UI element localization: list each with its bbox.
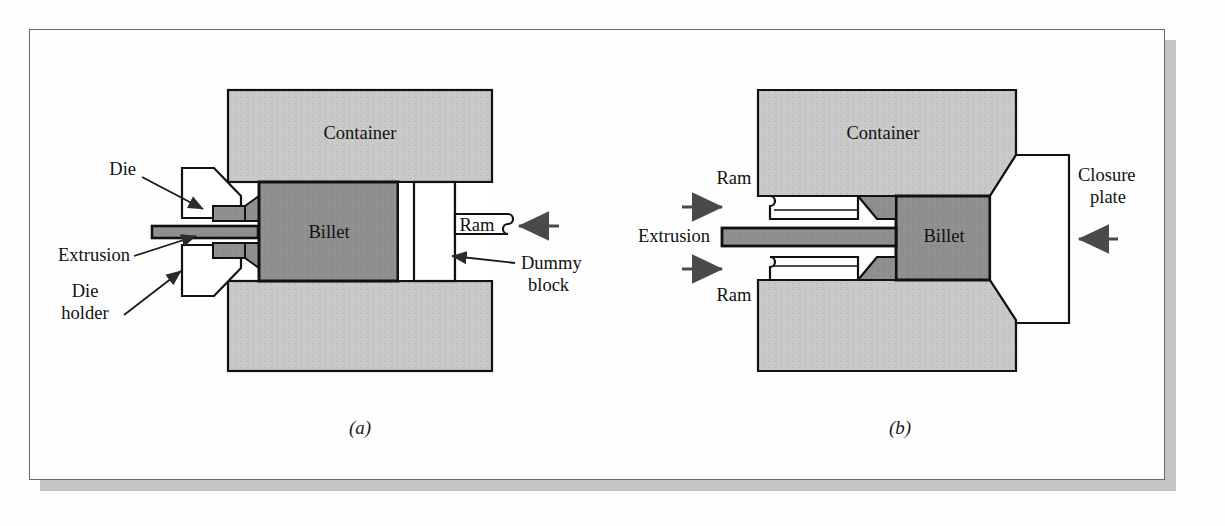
extrusion-b: [722, 228, 896, 246]
container-bottom-block-a: [228, 281, 492, 371]
die-lower-b: [858, 257, 896, 280]
figure-stage: Container Billet Ram Die Extrusion Die h…: [0, 0, 1225, 526]
ram-bottom-b: [770, 257, 858, 280]
die-lower-taper-a: [245, 243, 259, 268]
extrusion-label-a: Extrusion: [24, 245, 130, 266]
ram-top-label-b: Ram: [703, 168, 765, 189]
closure-plate-label-line2-b: plate: [1090, 187, 1170, 208]
closure-plate-label-line1-b: Closure: [1078, 165, 1178, 186]
container-label-a: Container: [294, 123, 426, 144]
caption-a: (a): [340, 417, 380, 439]
dummy-block-label-line2-a: block: [528, 275, 608, 296]
billet-dummy-gap-a: [398, 182, 414, 281]
ram-top-b: [770, 196, 858, 219]
caption-b: (b): [880, 417, 920, 439]
extrusion-label-b: Extrusion: [600, 226, 710, 247]
die-upper-a: [213, 206, 245, 221]
ram-bottom-label-b: Ram: [703, 285, 765, 306]
ram-label-a: Ram: [447, 215, 507, 236]
die-upper-b: [858, 196, 896, 219]
die-label-a: Die: [78, 159, 136, 180]
closure-plate-b: [990, 155, 1069, 323]
leader-die-holder-a: [124, 271, 181, 315]
extrusion-a: [152, 226, 258, 238]
die-lower-a: [213, 243, 245, 258]
container-label-b: Container: [817, 123, 949, 144]
die-holder-label-line1-a: Die: [52, 281, 118, 302]
container-bottom-block-b: [758, 280, 1016, 371]
dummy-block-label-line1-a: Dummy: [521, 253, 617, 274]
billet-label-b: Billet: [905, 226, 983, 247]
die-holder-label-line2-a: holder: [42, 303, 128, 324]
billet-label-a: Billet: [290, 222, 368, 243]
die-upper-taper-a: [245, 196, 259, 221]
